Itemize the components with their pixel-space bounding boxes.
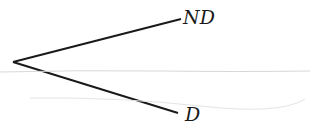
- branch-label-d: D: [185, 105, 200, 124]
- tree-diagram: ND D: [0, 0, 322, 139]
- tree-branches: [0, 0, 322, 139]
- branch-d-line: [13, 62, 178, 113]
- faint-scan-line: [30, 98, 305, 109]
- branch-label-nd: ND: [183, 8, 215, 27]
- branch-nd-line: [13, 19, 181, 62]
